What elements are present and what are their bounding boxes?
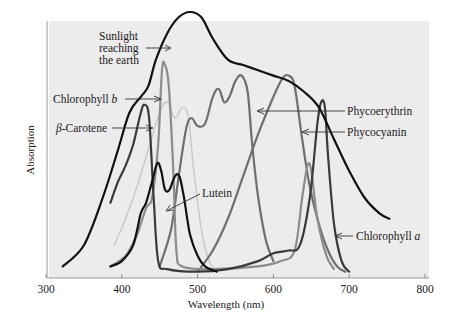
x-tick-label: 800 — [416, 283, 434, 295]
label-beta-carotene: β-Carotene — [55, 122, 107, 135]
x-tick-label: 300 — [37, 283, 55, 295]
label-sunlight-line3: the earth — [99, 54, 139, 66]
label-chlorophyll-a: Chlorophyll a — [356, 230, 420, 243]
label-lutein: Lutein — [202, 187, 232, 199]
x-tick-label: 700 — [341, 283, 359, 295]
label-phycoerythrin: Phycoerythrin — [347, 105, 412, 118]
label-phycocyanin: Phycocyanin — [347, 126, 407, 139]
x-tick-label: 500 — [189, 283, 207, 295]
y-axis-label: Absorption — [24, 125, 36, 175]
x-tick-label: 400 — [113, 283, 131, 295]
label-chlorophyll-b: Chlorophyll b — [53, 93, 117, 106]
x-tick-label: 600 — [265, 283, 283, 295]
absorption-spectrum-chart: 300400500600700800 Sunlight reaching the… — [0, 0, 458, 332]
x-axis-label: Wavelength (nm) — [188, 298, 265, 311]
